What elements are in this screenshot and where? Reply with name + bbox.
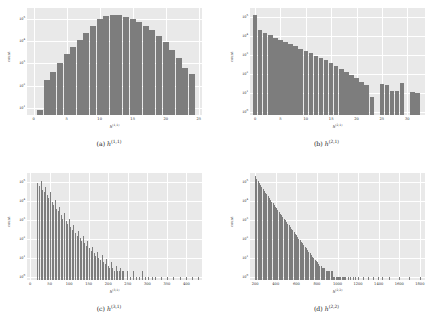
x-tick-label: 5 bbox=[279, 118, 281, 122]
caption-d: (d) h(2,2) bbox=[218, 305, 435, 312]
histogram-bar bbox=[189, 74, 195, 115]
histogram-bar bbox=[389, 277, 390, 280]
histogram-bar bbox=[385, 85, 389, 115]
histogram-bar bbox=[83, 33, 89, 115]
x-tick-label: 400 bbox=[272, 283, 279, 287]
histogram-bar bbox=[253, 15, 257, 115]
x-axis-label-d: h(2,2) bbox=[250, 289, 425, 294]
histogram-bar bbox=[127, 271, 128, 280]
y-tick-label: 104 bbox=[242, 199, 248, 204]
caption-prefix-d: (d) bbox=[314, 305, 323, 312]
gridline-vertical bbox=[199, 8, 200, 115]
panel-d: 100101102103104105 200400600800100012001… bbox=[218, 165, 435, 329]
y-tick-label: 102 bbox=[19, 237, 25, 242]
histogram-bar bbox=[293, 46, 297, 115]
y-tick-label: 103 bbox=[242, 53, 248, 58]
x-tick-label: 800 bbox=[313, 283, 320, 287]
histogram-bar bbox=[139, 277, 140, 280]
gridline-horizontal bbox=[250, 36, 425, 37]
histogram-bar bbox=[136, 277, 137, 280]
x-tick-label: 300 bbox=[144, 283, 151, 287]
histogram-bar bbox=[167, 277, 168, 280]
y-tick-label: 101 bbox=[19, 256, 25, 261]
histogram-bar bbox=[410, 92, 414, 115]
histogram-bar bbox=[363, 277, 364, 280]
histogram-bar bbox=[358, 277, 359, 280]
histogram-bar bbox=[155, 277, 156, 280]
caption-superscript-d: (2,2) bbox=[329, 304, 339, 309]
histogram-bar bbox=[354, 78, 358, 115]
caption-superscript-a: (1,1) bbox=[111, 139, 121, 144]
gridline-vertical bbox=[167, 173, 168, 280]
histogram-bar bbox=[116, 15, 122, 115]
panel-b: 100101102103104105 051015202530 count h(… bbox=[218, 0, 435, 165]
y-tick-label: 102 bbox=[242, 237, 248, 242]
gridline-horizontal bbox=[27, 201, 202, 202]
gridline-vertical bbox=[186, 173, 187, 280]
histogram-bar bbox=[395, 91, 399, 115]
histogram-bar bbox=[130, 277, 131, 280]
histogram-bar bbox=[380, 84, 384, 115]
gridline-vertical bbox=[338, 173, 339, 280]
histogram-bar bbox=[378, 277, 379, 280]
x-tick-label: 250 bbox=[124, 283, 131, 287]
gridline-vertical bbox=[407, 8, 408, 115]
histogram-bar bbox=[148, 277, 149, 280]
caption-a: (a) h(1,1) bbox=[0, 140, 218, 147]
histogram-bar bbox=[399, 277, 400, 280]
histogram-bar bbox=[186, 277, 187, 280]
gridline-vertical bbox=[399, 173, 400, 280]
plot-area-b bbox=[250, 8, 425, 115]
histogram-bar bbox=[198, 277, 199, 280]
x-axis-label-a: h(1,1) bbox=[27, 124, 202, 129]
x-tick-label: 1200 bbox=[354, 283, 363, 287]
x-tick-label: 5 bbox=[65, 118, 67, 122]
x-tick-label: 1800 bbox=[415, 283, 424, 287]
x-tick-label: 200 bbox=[252, 283, 259, 287]
plot-area-c bbox=[27, 173, 202, 280]
x-tick-label: 20 bbox=[163, 118, 168, 122]
x-tick-label: 0 bbox=[32, 118, 34, 122]
y-tick-label: 102 bbox=[19, 84, 25, 89]
x-tick-label: 1600 bbox=[395, 283, 404, 287]
gridline-vertical bbox=[30, 173, 31, 280]
y-tick-label: 105 bbox=[19, 180, 25, 185]
histogram-bar bbox=[50, 72, 56, 115]
figure-root: 101102103104105 0510152025 count h(1,1) … bbox=[0, 0, 435, 329]
x-tick-label: 20 bbox=[354, 118, 359, 122]
caption-prefix-a: (a) bbox=[97, 140, 106, 147]
x-axis-label-superscript-c: (3,1) bbox=[112, 288, 119, 292]
x-axis-label-c: h(3,1) bbox=[27, 289, 202, 294]
gridline-vertical bbox=[147, 173, 148, 280]
histogram-bar bbox=[133, 271, 134, 280]
y-axis-label-b: count bbox=[231, 46, 235, 68]
histogram-bar bbox=[359, 82, 363, 115]
histogram-bar bbox=[415, 93, 419, 115]
histogram-bar bbox=[370, 97, 374, 115]
histogram-bar bbox=[400, 83, 404, 115]
histogram-bar bbox=[334, 66, 338, 115]
y-tick-label: 100 bbox=[242, 275, 248, 280]
histogram-bar bbox=[324, 60, 328, 115]
x-axis-label-b: h(2,1) bbox=[250, 124, 425, 129]
histogram-bar bbox=[110, 15, 116, 115]
histogram-bar bbox=[123, 17, 129, 115]
x-tick-label: 10 bbox=[304, 118, 309, 122]
gridline-vertical bbox=[358, 173, 359, 280]
caption-prefix-c: (c) bbox=[97, 305, 105, 312]
histogram-bar bbox=[192, 277, 193, 280]
histogram-bar bbox=[143, 26, 149, 115]
panel-c: 100101102103104105 050100150200250300350… bbox=[0, 165, 218, 329]
histogram-bar bbox=[278, 40, 282, 115]
histogram-bar bbox=[263, 33, 267, 115]
histogram-bar bbox=[309, 53, 313, 115]
histogram-bar bbox=[130, 19, 136, 115]
histogram-bar bbox=[173, 277, 174, 280]
y-axis-label-d: count bbox=[231, 211, 235, 233]
histogram-bar bbox=[123, 271, 124, 280]
y-tick-label: 104 bbox=[242, 34, 248, 39]
histogram-bar bbox=[345, 277, 346, 280]
histogram-bar bbox=[258, 30, 262, 115]
gridline-horizontal bbox=[27, 182, 202, 183]
y-tick-label: 101 bbox=[19, 106, 25, 111]
